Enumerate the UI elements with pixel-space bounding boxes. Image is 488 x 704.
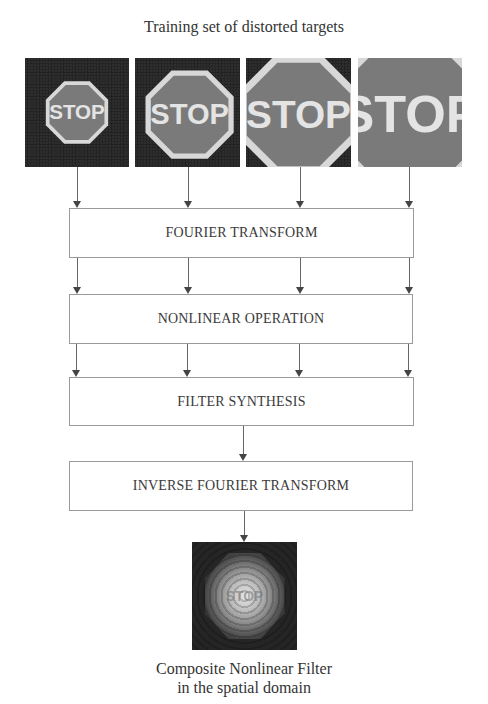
stop-sign-icon: STOP — [358, 58, 462, 167]
output-caption-line1: Composite Nonlinear Filter — [0, 659, 488, 678]
training-image-3: STOP — [246, 58, 351, 167]
arrow-down-icon — [296, 201, 304, 208]
connector-line — [409, 258, 410, 287]
connector-line — [300, 258, 301, 287]
arrow-down-icon — [184, 287, 192, 294]
connector-line — [243, 426, 244, 454]
arrow-down-icon — [184, 201, 192, 208]
arrow-down-icon — [239, 454, 247, 461]
arrow-down-icon — [240, 535, 248, 542]
step-label: INVERSE FOURIER TRANSFORM — [133, 478, 349, 494]
arrow-down-icon — [73, 201, 81, 208]
arrow-down-icon — [183, 370, 191, 377]
training-image-1: STOP — [25, 58, 129, 167]
arrow-down-icon — [405, 287, 413, 294]
connector-line — [299, 344, 300, 370]
arrow-down-icon — [295, 370, 303, 377]
connector-line — [300, 167, 301, 201]
stop-text: STOP — [150, 98, 229, 130]
inverse-fourier-transform-box: INVERSE FOURIER TRANSFORM — [69, 461, 413, 511]
stop-text: STOP — [49, 100, 105, 123]
connector-line — [409, 167, 410, 201]
stop-sign-icon: STOP — [25, 58, 129, 167]
stop-text: STOP — [358, 85, 462, 143]
filter-synthesis-box: FILTER SYNTHESIS — [69, 377, 414, 426]
connector-line — [188, 258, 189, 287]
arrow-down-icon — [73, 287, 81, 294]
stop-sign-icon: STOP — [246, 58, 351, 167]
training-image-4: STOP — [358, 58, 462, 167]
ghost-stop-text: STOP — [192, 588, 297, 604]
connector-line — [76, 344, 77, 370]
step-label: FOURIER TRANSFORM — [165, 225, 317, 241]
step-label: NONLINEAR OPERATION — [158, 311, 325, 327]
arrow-down-icon — [72, 370, 80, 377]
connector-line — [77, 258, 78, 287]
arrow-down-icon — [404, 370, 412, 377]
arrow-down-icon — [405, 201, 413, 208]
stop-sign-icon: STOP — [135, 58, 240, 167]
composite-filter-image: STOP — [192, 542, 297, 650]
diagram-title: Training set of distorted targets — [0, 18, 488, 36]
fourier-transform-box: FOURIER TRANSFORM — [69, 208, 414, 258]
connector-line — [188, 167, 189, 201]
stop-text: STOP — [246, 93, 351, 136]
arrow-down-icon — [296, 287, 304, 294]
connector-line — [244, 511, 245, 535]
connector-line — [187, 344, 188, 370]
output-caption-line2: in the spatial domain — [0, 678, 488, 697]
nonlinear-operation-box: NONLINEAR OPERATION — [69, 294, 413, 344]
connector-line — [408, 344, 409, 370]
training-image-2: STOP — [135, 58, 240, 167]
connector-line — [77, 167, 78, 201]
step-label: FILTER SYNTHESIS — [177, 394, 305, 410]
